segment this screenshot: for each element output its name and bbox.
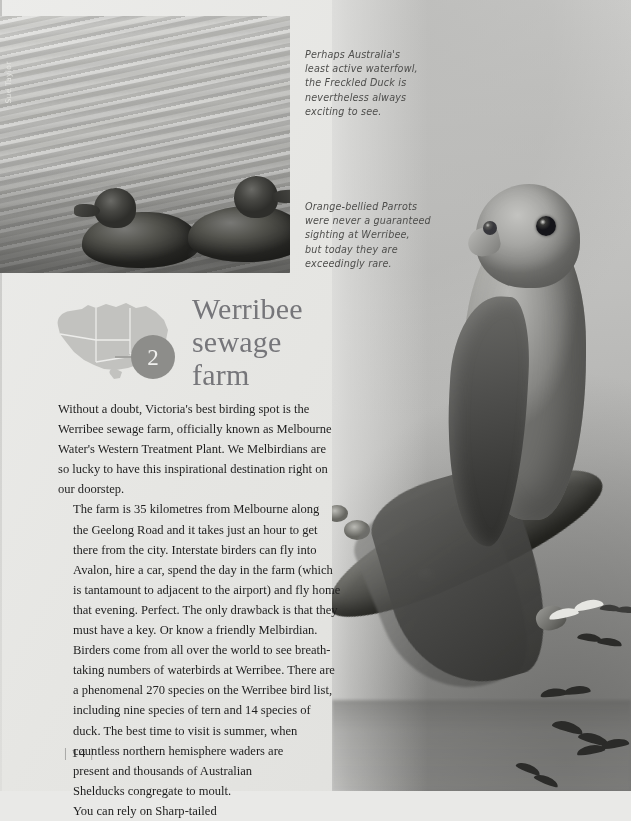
- caption-line: exciting to see.: [305, 105, 455, 119]
- body-line: duck. The best time to visit is summer, …: [58, 721, 350, 741]
- parrot-eye-far: [483, 221, 497, 235]
- body-line: so lucky to have this inspirational dest…: [58, 459, 350, 479]
- parrot-figure: [450, 176, 625, 646]
- duck-bill: [272, 190, 290, 203]
- caption-line: least active waterfowl,: [305, 62, 455, 76]
- body-line: You can rely on Sharp-tailed: [58, 801, 350, 821]
- body-line: Without a doubt, Victoria's best birding…: [58, 399, 350, 419]
- caption-line: the Freckled Duck is: [305, 76, 455, 90]
- caption-line: were never a guaranteed: [305, 214, 465, 228]
- body-line: the Geelong Road and it takes just an ho…: [58, 520, 350, 540]
- body-paragraph: The farm is 35 kilometres from Melbourne…: [58, 499, 350, 640]
- body-line: present and thousands of Australian: [58, 761, 350, 781]
- caption-line: sighting at Werribee,: [305, 228, 465, 242]
- body-line: must have a key. Or know a friendly Melb…: [58, 620, 350, 640]
- caption-line: exceedingly rare.: [305, 257, 465, 271]
- body-line: Water's Western Treatment Plant. We Melb…: [58, 439, 350, 459]
- caption-line: but today they are: [305, 243, 465, 257]
- parrot-eye: [536, 216, 556, 236]
- body-line: Shelducks congregate to moult.: [58, 781, 350, 801]
- folio-value: 14: [72, 745, 87, 760]
- body-line: Avalon, hire a car, spend the day in the…: [58, 560, 350, 580]
- page-title-line: Werribee: [192, 292, 342, 325]
- caption-line: Perhaps Australia's: [305, 48, 455, 62]
- body-paragraph: Birders come from all over the world to …: [58, 640, 350, 821]
- body-line: Werribee sewage farm, officially known a…: [58, 419, 350, 439]
- body-line: that evening. Perfect. The only drawback…: [58, 600, 350, 620]
- body-paragraph: Without a doubt, Victoria's best birding…: [58, 399, 350, 499]
- body-line: countless northern hemisphere waders are: [58, 741, 350, 761]
- page-number: |14|: [60, 745, 98, 761]
- page-title-line: farm: [192, 358, 342, 391]
- body-line: is tantamount to adjacent to the airport…: [58, 580, 350, 600]
- body-line: taking numbers of waterbirds at Werribee…: [58, 660, 350, 680]
- folio-rule-right: |: [87, 745, 99, 760]
- caption-line: nevertheless always: [305, 91, 455, 105]
- body-line: there from the city. Interstate birders …: [58, 540, 350, 560]
- body-line: a phenomenal 270 species on the Werribee…: [58, 680, 350, 700]
- duck-head: [94, 188, 136, 228]
- section-number: 2: [147, 346, 159, 369]
- body-line: The farm is 35 kilometres from Melbourne…: [58, 499, 350, 519]
- duck-photo-caption: Perhaps Australia'sleast active waterfow…: [305, 48, 455, 119]
- article-body: Without a doubt, Victoria's best birding…: [58, 399, 350, 821]
- folio-rule-left: |: [60, 745, 72, 760]
- page-title-line: sewage: [192, 325, 342, 358]
- parrot-photo-caption: Orange-bellied Parrotswere never a guara…: [305, 200, 465, 271]
- section-number-marker: 2: [131, 335, 175, 379]
- body-line: including nine species of tern and 14 sp…: [58, 700, 350, 720]
- page-title: Werribeesewagefarm: [192, 292, 342, 391]
- photographer-credit: Sue Taylor: [4, 61, 13, 103]
- body-line: our doorstep.: [58, 479, 350, 499]
- freckled-duck-photo: Sue Taylor: [0, 16, 290, 273]
- duck-bill: [74, 204, 100, 217]
- body-line: Birders come from all over the world to …: [58, 640, 350, 660]
- caption-line: Orange-bellied Parrots: [305, 200, 465, 214]
